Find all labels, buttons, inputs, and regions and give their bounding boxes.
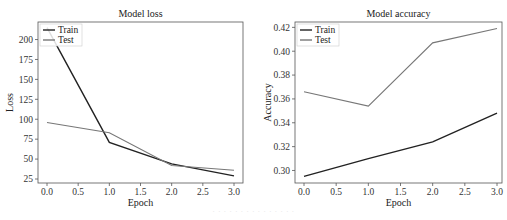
x-tick-label: 1.5 (135, 187, 147, 197)
y-axis-label: Loss (4, 93, 15, 112)
legend: TrainTest (40, 24, 82, 46)
legend-label: Test (315, 35, 331, 45)
x-tick-label: 2.0 (427, 187, 439, 197)
series-line-train (47, 28, 234, 176)
y-tick-label: 75 (24, 134, 34, 144)
loss-chart: Model loss0.00.51.01.52.02.53.0255075100… (4, 8, 243, 208)
y-tick-label: 50 (24, 154, 34, 164)
legend: TrainTest (297, 24, 339, 46)
x-tick-label: 1.0 (362, 187, 374, 197)
x-tick-label: 0.5 (330, 187, 342, 197)
y-tick-label: 200 (19, 35, 34, 45)
x-tick-label: 2.5 (197, 187, 209, 197)
y-tick-label: 0.42 (273, 23, 290, 33)
chart-title: Model loss (118, 8, 162, 19)
series-line-train (304, 113, 497, 176)
y-tick-label: 0.40 (273, 47, 290, 57)
legend-label: Train (58, 25, 78, 35)
x-tick-label: 2.0 (166, 187, 178, 197)
y-tick-label: 150 (19, 75, 34, 85)
x-tick-label: 2.5 (459, 187, 471, 197)
x-tick-label: 1.0 (103, 187, 115, 197)
x-tick-label: 0.5 (72, 187, 84, 197)
x-tick-label: 1.5 (395, 187, 407, 197)
accuracy-chart: Model accuracy0.00.51.01.52.02.53.00.300… (262, 8, 503, 208)
y-tick-label: 0.32 (273, 142, 290, 152)
figure-caption: · · · · · · · · · · · · · · · (0, 207, 507, 216)
x-tick-label: 3.0 (491, 187, 503, 197)
y-tick-label: 125 (19, 95, 34, 105)
y-tick-label: 0.30 (273, 166, 290, 176)
y-axis-label: Accuracy (262, 83, 273, 121)
y-tick-label: 0.34 (273, 118, 290, 128)
legend-label: Train (315, 25, 335, 35)
y-tick-label: 25 (24, 174, 34, 184)
y-tick-label: 0.36 (273, 94, 290, 104)
x-tick-label: 0.0 (41, 187, 53, 197)
y-tick-label: 0.38 (273, 70, 290, 80)
y-tick-label: 100 (19, 115, 34, 125)
x-tick-label: 3.0 (228, 187, 240, 197)
x-tick-label: 0.0 (298, 187, 310, 197)
y-tick-label: 175 (19, 55, 34, 65)
chart-title: Model accuracy (366, 8, 430, 19)
figure: Model loss0.00.51.01.52.02.53.0255075100… (0, 0, 507, 220)
series-line-test (47, 122, 234, 170)
legend-label: Test (58, 35, 74, 45)
